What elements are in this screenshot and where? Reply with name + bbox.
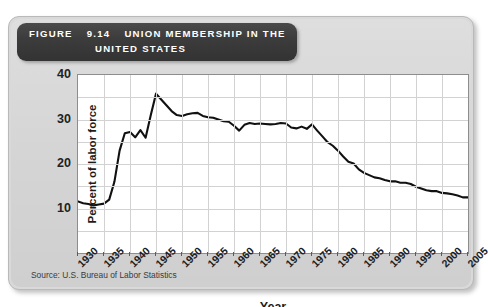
figure-card: FIGURE 9.14 UNION MEMBERSHIP IN THE UNIT… <box>8 16 474 290</box>
y-tick-label: 20 <box>57 156 71 170</box>
x-tick-mark <box>311 252 312 256</box>
gridline-horizontal <box>78 120 468 121</box>
figure-number: 9.14 <box>87 27 111 42</box>
gridline-vertical <box>208 75 209 253</box>
x-tick-mark <box>155 252 156 256</box>
gridline-vertical <box>156 75 157 253</box>
chart-plot-area: 10203040 1930193519401945195019551960196… <box>77 74 469 254</box>
x-tick-mark <box>129 252 130 256</box>
chart-plot-frame <box>77 74 469 254</box>
gridline-vertical <box>104 75 105 253</box>
x-tick-mark <box>103 252 104 256</box>
gridline-vertical <box>234 75 235 253</box>
y-tick-label: 40 <box>57 67 71 81</box>
y-tick-label: 30 <box>57 112 71 126</box>
gridline-vertical <box>338 75 339 253</box>
figure-number-label: FIGURE <box>29 27 73 42</box>
gridline-horizontal <box>78 97 468 98</box>
gridline-vertical <box>182 75 183 253</box>
gridline-vertical <box>442 75 443 253</box>
gridline-horizontal <box>78 142 468 143</box>
gridline-vertical <box>312 75 313 253</box>
gridline-horizontal <box>78 231 468 232</box>
gridline-vertical <box>130 75 131 253</box>
chart-y-axis-title: Percent of labor force <box>86 105 98 224</box>
x-tick-mark <box>441 252 442 256</box>
gridline-horizontal <box>78 164 468 165</box>
x-tick-mark <box>363 252 364 256</box>
x-tick-mark <box>415 252 416 256</box>
x-tick-mark <box>467 252 468 256</box>
y-tick-label: 10 <box>57 201 71 215</box>
figure-screenshot: FIGURE 9.14 UNION MEMBERSHIP IN THE UNIT… <box>0 0 488 307</box>
chart-x-axis-title: Year <box>260 300 286 307</box>
x-tick-mark <box>337 252 338 256</box>
gridline-vertical <box>390 75 391 253</box>
gridline-horizontal <box>78 209 468 210</box>
gridline-vertical <box>416 75 417 253</box>
x-tick-mark <box>285 252 286 256</box>
figure-title-line1: UNION MEMBERSHIP IN THE <box>124 27 285 42</box>
figure-header-banner: FIGURE 9.14 UNION MEMBERSHIP IN THE UNIT… <box>17 23 297 61</box>
x-tick-mark <box>389 252 390 256</box>
x-tick-mark <box>77 252 78 256</box>
x-tick-mark <box>259 252 260 256</box>
gridline-vertical <box>286 75 287 253</box>
x-tick-mark <box>233 252 234 256</box>
x-tick-mark <box>207 252 208 256</box>
gridline-vertical <box>260 75 261 253</box>
x-tick-mark <box>181 252 182 256</box>
gridline-vertical <box>364 75 365 253</box>
figure-source-note: Source: U.S. Bureau of Labor Statistics <box>31 270 177 280</box>
figure-title-line2: UNITED STATES <box>29 42 287 57</box>
gridline-horizontal <box>78 186 468 187</box>
